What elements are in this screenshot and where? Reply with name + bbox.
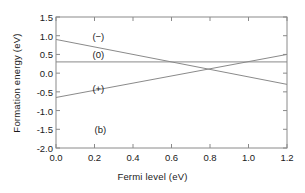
x-tick-label-1: 0.2	[88, 152, 101, 163]
series-label-+: (+)	[92, 83, 104, 94]
plot-frame	[56, 17, 287, 148]
x-tick-label-3: 0.6	[165, 152, 178, 163]
x-tick-label-4: 0.8	[203, 152, 216, 163]
y-tick-label-4: -0.5	[37, 86, 53, 97]
y-tick-label-1: 1.0	[40, 30, 53, 41]
y-tick-label-7: -2.0	[37, 143, 53, 154]
y-tick-label-0: 1.5	[40, 12, 53, 23]
y-axis-title: Formation energy (eV)	[11, 8, 22, 158]
panel-label-0: (b)	[95, 124, 107, 135]
chart-figure: Fermi level (eV) Formation energy (eV) 0…	[0, 0, 305, 193]
x-tick-label-2: 0.4	[126, 152, 139, 163]
x-tick-label-6: 1.2	[280, 152, 293, 163]
y-tick-label-6: -1.5	[37, 124, 53, 135]
y-tick-label-3: 0.0	[40, 68, 53, 79]
y-tick-label-5: -1.0	[37, 105, 53, 116]
x-tick-label-0: 0.0	[49, 152, 62, 163]
series-label--: (−)	[92, 30, 104, 41]
x-tick-label-5: 1.0	[242, 152, 255, 163]
series-label-0: (0)	[93, 48, 105, 59]
y-tick-label-2: 0.5	[40, 49, 53, 60]
x-axis-title: Fermi level (eV)	[0, 171, 305, 182]
y-axis-title-wrap: Formation energy (eV)	[11, 8, 25, 158]
